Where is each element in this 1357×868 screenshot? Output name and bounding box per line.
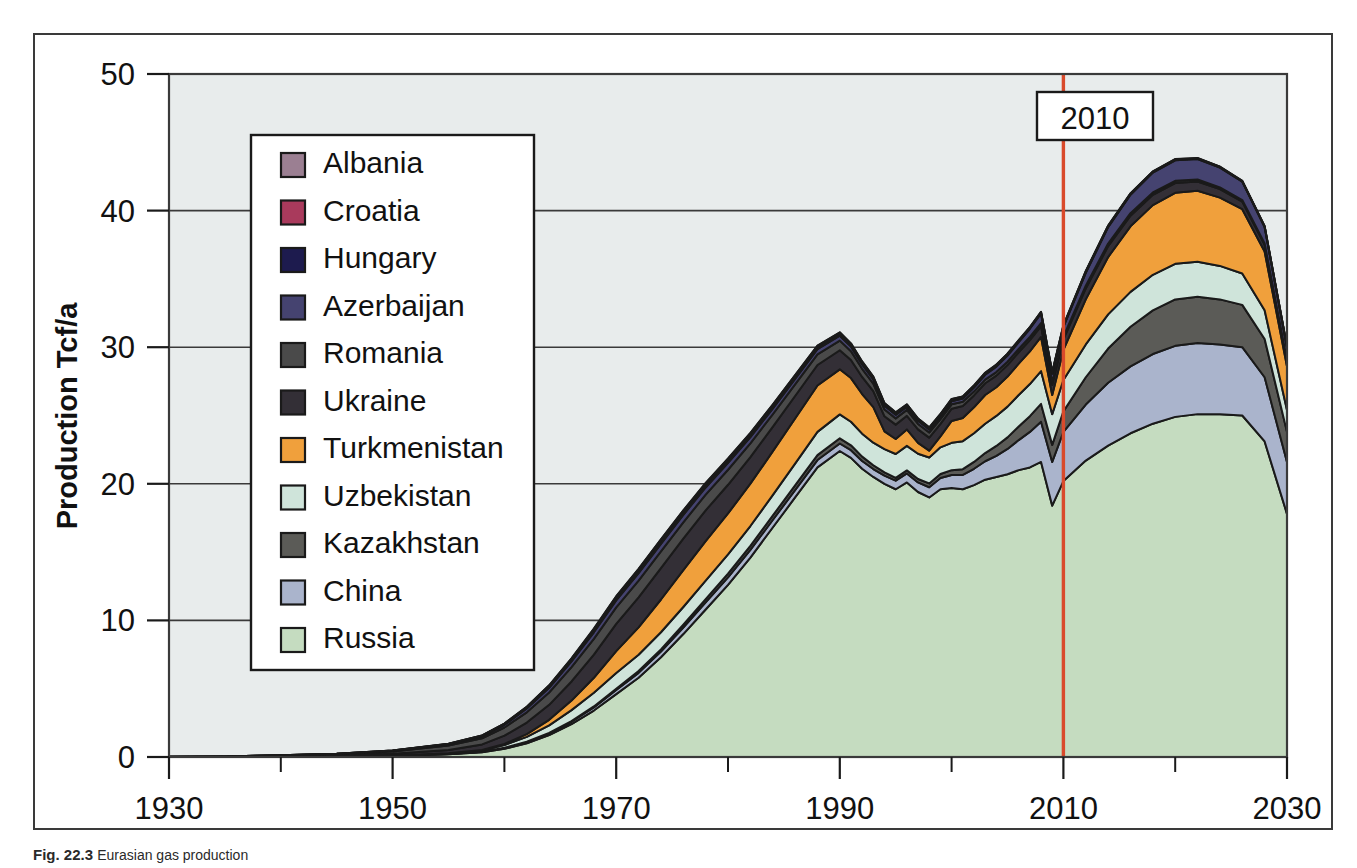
y-tick-label: 20: [101, 467, 135, 502]
y-tick-label: 40: [101, 194, 135, 229]
x-tick-label: 2030: [1253, 791, 1322, 826]
legend-label: Romania: [323, 336, 443, 369]
legend-swatch: [281, 486, 305, 510]
x-tick-label: 1990: [805, 791, 874, 826]
caption-label: Fig. 22.3: [33, 846, 93, 863]
legend-swatch: [281, 248, 305, 272]
legend-swatch: [281, 628, 305, 652]
legend-swatch: [281, 201, 305, 225]
legend-swatch: [281, 438, 305, 462]
legend-label: Croatia: [323, 194, 420, 227]
legend-swatch: [281, 581, 305, 605]
y-tick-label: 10: [101, 603, 135, 638]
x-tick-label: 1930: [135, 791, 204, 826]
year-annotation: 2010: [1037, 92, 1153, 140]
legend-swatch: [281, 533, 305, 557]
year-annotation-label: 2010: [1061, 101, 1130, 136]
y-axis: 01020304050: [101, 57, 169, 775]
legend-label: Uzbekistan: [323, 479, 471, 512]
legend: AlbaniaCroatiaHungaryAzerbaijanRomaniaUk…: [251, 135, 534, 670]
x-tick-label: 2010: [1029, 791, 1098, 826]
legend-label: China: [323, 574, 402, 607]
figure-caption: Fig. 22.3 Eurasian gas production: [33, 846, 1333, 868]
y-tick-label: 50: [101, 57, 135, 92]
legend-swatch: [281, 343, 305, 367]
stacked-area-chart: 01020304050 193019501970199020102030 Pro…: [35, 35, 1331, 828]
legend-swatch: [281, 391, 305, 415]
legend-label: Albania: [323, 146, 423, 179]
caption-text: Eurasian gas production: [97, 847, 248, 863]
y-tick-label: 30: [101, 330, 135, 365]
y-tick-label: 0: [118, 740, 135, 775]
figure-root: 01020304050 193019501970199020102030 Pro…: [0, 0, 1357, 868]
x-tick-label: 1970: [582, 791, 651, 826]
legend-label: Hungary: [323, 241, 436, 274]
x-axis: 193019501970199020102030: [135, 757, 1322, 826]
legend-swatch: [281, 296, 305, 320]
figure-frame: 01020304050 193019501970199020102030 Pro…: [33, 33, 1333, 830]
x-tick-label: 1950: [358, 791, 427, 826]
y-axis-title: Production Tcf/a: [51, 302, 83, 530]
legend-swatch: [281, 153, 305, 177]
legend-label: Kazakhstan: [323, 526, 480, 559]
legend-label: Ukraine: [323, 384, 426, 417]
legend-label: Russia: [323, 621, 415, 654]
legend-label: Azerbaijan: [323, 289, 465, 322]
legend-label: Turkmenistan: [323, 431, 504, 464]
